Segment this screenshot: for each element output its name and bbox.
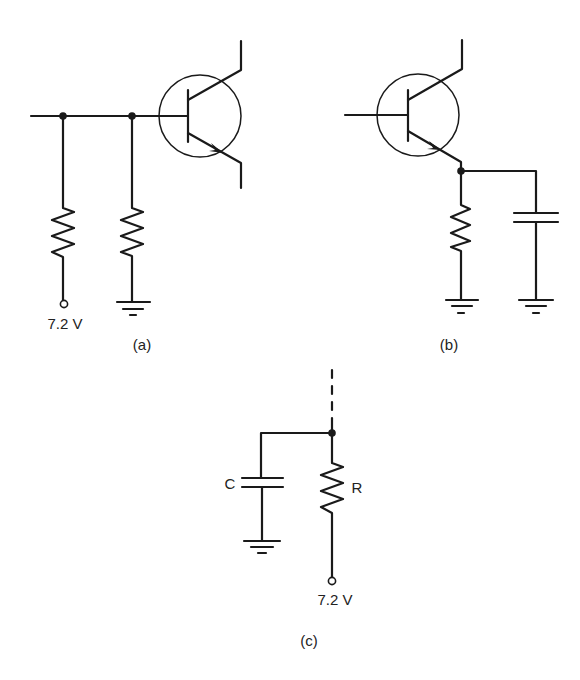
supply-voltage-label: 7.2 V bbox=[47, 315, 82, 332]
ground-icon bbox=[446, 300, 478, 313]
circuit-diagram bbox=[0, 0, 580, 680]
panel-caption: (c) bbox=[300, 632, 318, 649]
panel-caption: (a) bbox=[133, 336, 151, 353]
ground-icon bbox=[117, 302, 150, 315]
resistor-icon bbox=[451, 171, 470, 300]
supply-terminal-icon bbox=[328, 577, 335, 584]
capacitor-icon bbox=[514, 213, 558, 300]
resistor-icon bbox=[321, 433, 343, 577]
resistor-icon bbox=[52, 116, 74, 300]
ground-icon bbox=[519, 300, 553, 313]
capacitor-wire bbox=[461, 171, 536, 213]
ground-icon bbox=[244, 541, 280, 553]
npn-transistor-icon bbox=[377, 40, 462, 171]
capacitor-label: C bbox=[225, 475, 236, 492]
panel-b bbox=[345, 40, 558, 313]
panel-caption: (b) bbox=[440, 336, 458, 353]
panel-c bbox=[242, 370, 343, 585]
panel-a bbox=[31, 41, 241, 315]
supply-terminal-icon bbox=[60, 300, 67, 307]
resistor-icon bbox=[121, 116, 143, 302]
capacitor-wire bbox=[261, 433, 332, 478]
resistor-label: R bbox=[352, 479, 363, 496]
npn-transistor-icon bbox=[159, 41, 241, 188]
supply-voltage-label: 7.2 V bbox=[317, 591, 352, 608]
capacitor-icon bbox=[242, 478, 283, 541]
